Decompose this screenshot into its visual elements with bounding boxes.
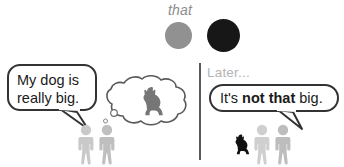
right-speech-suffix: big. — [295, 90, 322, 106]
panel-divider — [199, 63, 201, 160]
right-speech-prefix: It's — [220, 90, 242, 106]
dog-silhouette-icon — [140, 85, 168, 117]
two-person-figures-icon — [252, 124, 298, 167]
two-person-figures-icon — [76, 124, 122, 167]
left-speech-line-1: My dog is — [17, 72, 79, 88]
comic-illustration: that My dog is really big. Later... — [0, 0, 344, 167]
small-gray-circle-icon — [165, 22, 192, 49]
small-dog-silhouette-icon — [233, 133, 253, 155]
that-label: that — [156, 2, 204, 18]
later-label: Later... — [207, 65, 250, 80]
right-speech-emphasis: not that — [242, 90, 295, 106]
large-black-circle-icon — [207, 19, 240, 52]
left-speech-line-2: really big. — [17, 89, 95, 107]
left-speech-bubble: My dog is really big. — [7, 64, 97, 111]
right-speech-bubble: It's not that big. — [209, 84, 339, 112]
